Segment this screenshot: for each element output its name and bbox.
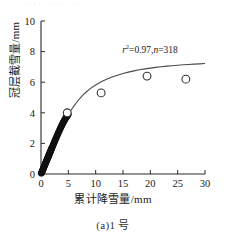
figure-caption: (a)1 号 <box>0 216 226 232</box>
x-tick-label: 15 <box>118 178 129 189</box>
data-point <box>63 109 71 117</box>
x-tick-label: 30 <box>200 178 211 189</box>
figure-panel: · · · · · · · · · · · · · · 051015202530… <box>0 0 226 243</box>
y-tick-label: 2 <box>30 138 35 149</box>
y-tick-label: 8 <box>30 46 35 57</box>
x-axis-ticks <box>41 170 205 174</box>
open-data-points <box>63 72 189 117</box>
y-tick-label: 10 <box>25 16 36 27</box>
y-tick-label: 6 <box>30 77 35 88</box>
y-axis-ticks <box>41 21 45 174</box>
x-tick-label: 5 <box>66 178 71 189</box>
data-point <box>97 89 105 97</box>
x-tick-label: 25 <box>172 178 183 189</box>
y-axis-label: 冠层截雪量/mm <box>6 0 22 120</box>
x-tick-label: 10 <box>90 178 101 189</box>
axes <box>41 21 205 174</box>
r-value: =0.97, <box>129 45 153 55</box>
fit-statistics-annotation: r2=0.97,n=318 <box>122 43 178 55</box>
x-tick-label: 20 <box>145 178 156 189</box>
plot-area: 051015202530 0246810 r2=0.97,n=318 <box>0 10 226 195</box>
x-tick-label: 0 <box>38 178 43 189</box>
y-tick-label: 4 <box>30 108 36 119</box>
n-value: =318 <box>158 45 178 55</box>
page-bleed-artifact: · · · · · · · · · · · · · · <box>14 1 144 10</box>
svg-text:r2=0.97,n=318: r2=0.97,n=318 <box>122 43 178 55</box>
y-tick-label: 0 <box>30 169 35 180</box>
x-axis-tick-labels: 051015202530 <box>38 178 210 189</box>
data-point <box>143 72 151 80</box>
x-axis-label: 累计降雪量/mm <box>0 190 226 206</box>
scatter-chart: 051015202530 0246810 r2=0.97,n=318 <box>0 10 226 195</box>
data-point <box>182 75 190 83</box>
y-axis-tick-labels: 0246810 <box>25 16 36 180</box>
